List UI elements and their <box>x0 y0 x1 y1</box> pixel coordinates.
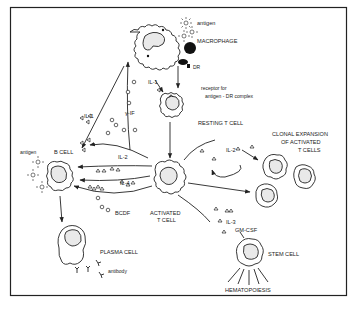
macrophage-label: MACROPHAGE <box>197 38 238 44</box>
receptor-label-1: receptor for <box>201 85 227 91</box>
antigen-label-top: antigen <box>197 20 215 26</box>
clonal-t-cells <box>256 154 316 207</box>
hematopoiesis-rays <box>228 268 268 285</box>
clonal-label-1: CLONAL EXPANSION <box>272 131 328 137</box>
clonal-label-2: OF ACTIVATED <box>281 139 321 145</box>
il4-label: IL-4 <box>120 180 130 186</box>
il3-label: IL-3 <box>226 219 236 225</box>
activated-t-cell-label-1: ACTIVATED <box>150 210 181 216</box>
b-cell <box>47 161 74 190</box>
antigen-icons-top <box>178 17 198 42</box>
il2-label-right: IL-2 <box>226 147 236 153</box>
dr-label: DR <box>193 64 201 70</box>
plasma-cell <box>58 226 86 265</box>
immune-interaction-diagram: antigen MACROPHAGE DR receptor for antig… <box>0 0 353 309</box>
plasma-cell-label: PLASMA CELL <box>100 249 138 255</box>
gamma-if-label: γ-IF <box>125 110 135 116</box>
il1-label-left: IL-1 <box>84 113 94 119</box>
resting-t-cell <box>160 93 184 118</box>
macrophage-cell <box>130 25 196 70</box>
il2-label-left: IL-2 <box>118 154 128 160</box>
antigen-icons-left <box>27 156 48 193</box>
stem-cell-label: STEM CELL <box>268 251 299 257</box>
clonal-label-3: T CELLS <box>298 147 321 153</box>
gmcsf-label: GM-CSF <box>235 227 258 233</box>
bcdf-label: BCDF <box>115 210 131 216</box>
hematopoiesis-label: HEMATOPOIESIS <box>225 287 271 293</box>
il1-label-top: IL-1 <box>148 79 158 85</box>
resting-t-cell-label: RESTING T CELL <box>198 120 243 126</box>
activated-t-cell-label-2: T CELL <box>157 217 176 223</box>
antigen-label-left: antigen <box>20 149 37 155</box>
antibody-label: antibody <box>108 268 127 274</box>
activated-t-cell <box>154 160 186 194</box>
b-cell-label: B CELL <box>54 149 73 155</box>
stem-cell <box>236 239 263 267</box>
receptor-label-2: antigen - DR complex <box>205 93 254 99</box>
